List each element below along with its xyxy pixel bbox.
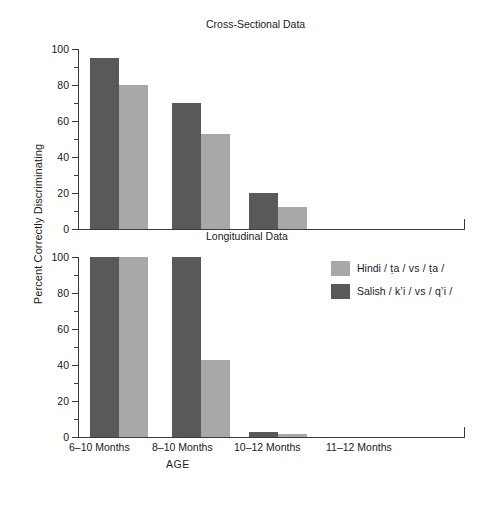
bar-long-hindi-10-12 <box>278 434 307 437</box>
y-tick-label-40-bottom: 40 <box>57 360 69 371</box>
bar-long-salish-8-10 <box>172 257 201 437</box>
y-minor-tick-70-top <box>74 103 78 104</box>
bar-cross-salish-10-12 <box>249 193 278 229</box>
y-axis-line-top <box>78 49 79 230</box>
bar-cross-salish-6-10 <box>90 58 119 229</box>
y-minor-tick-90-top <box>74 67 78 68</box>
y-tick-label-100-top: 100 <box>51 44 69 55</box>
y-tick-0-bottom <box>72 437 78 438</box>
y-minor-tick-30-top <box>74 175 78 176</box>
bar-cross-hindi-8-10 <box>201 134 230 229</box>
y-tick-20-top <box>72 193 78 194</box>
y-tick-80-top <box>72 85 78 86</box>
legend-label-salish: Salish / kʼi / vs / qʼi / <box>357 284 452 299</box>
x-axis-title: AGE <box>78 458 278 470</box>
y-tick-label-20-bottom: 20 <box>57 396 69 407</box>
legend-label-hindi-name: Hindi <box>357 262 381 274</box>
y-tick-80-bottom <box>72 293 78 294</box>
y-tick-label-20-top: 20 <box>57 188 69 199</box>
legend-item-salish: Salish / kʼi / vs / qʼi / <box>331 282 501 305</box>
x-axis-endcap-bottom <box>464 427 465 438</box>
y-tick-20-bottom <box>72 401 78 402</box>
y-minor-tick-90-bottom <box>74 275 78 276</box>
legend-item-hindi: Hindi / ṭa / vs / ṭa / <box>331 259 501 282</box>
y-minor-tick-30-bottom <box>74 383 78 384</box>
y-tick-40-bottom <box>72 365 78 366</box>
x-tick-label-8-10: 8–10 Months <box>152 441 213 453</box>
bar-long-salish-6-10 <box>90 257 119 437</box>
y-minor-tick-50-top <box>74 139 78 140</box>
x-tick-label-10-12: 10–12 Months <box>234 441 301 453</box>
y-minor-tick-10-top <box>74 211 78 212</box>
panel-title-longitudinal: Longitudinal Data <box>206 230 288 242</box>
y-minor-tick-70-bottom <box>74 311 78 312</box>
legend-label-salish-name: Salish <box>357 285 386 297</box>
legend-label-hindi: Hindi / ṭa / vs / ṭa / <box>357 261 444 276</box>
figure-chart: Percent Correctly Discriminating Cross-S… <box>0 0 501 506</box>
bar-long-hindi-8-10 <box>201 360 230 437</box>
y-tick-label-40-top: 40 <box>57 152 69 163</box>
y-tick-label-60-top: 60 <box>57 116 69 127</box>
x-tick-label-6-10: 6–10 Months <box>69 441 130 453</box>
y-tick-label-80-bottom: 80 <box>57 288 69 299</box>
legend-swatch-hindi <box>331 261 350 276</box>
y-tick-100-top <box>72 49 78 50</box>
chart-legend: Hindi / ṭa / vs / ṭa / Salish / kʼi / vs… <box>331 259 501 305</box>
x-axis-line-bottom <box>78 437 465 438</box>
x-tick-label-11-12: 11–12 Months <box>326 441 392 453</box>
y-minor-tick-10-bottom <box>74 419 78 420</box>
y-tick-60-bottom <box>72 329 78 330</box>
legend-label-hindi-ipa: / ṭa / vs / ṭa / <box>381 262 445 274</box>
legend-swatch-salish <box>331 284 350 299</box>
y-tick-label-80-top: 80 <box>57 80 69 91</box>
bar-cross-hindi-6-10 <box>119 85 148 229</box>
panel-title-cross-sectional: Cross-Sectional Data <box>206 18 305 30</box>
legend-label-salish-ipa: / kʼi / vs / qʼi / <box>386 285 453 297</box>
bar-cross-salish-8-10 <box>172 103 201 229</box>
y-tick-60-top <box>72 121 78 122</box>
x-axis-endcap-top <box>464 219 465 230</box>
bar-cross-hindi-10-12 <box>278 207 307 229</box>
plot-area-cross-sectional: 100 80 60 40 20 0 <box>78 49 465 230</box>
y-minor-tick-50-bottom <box>74 347 78 348</box>
bar-long-hindi-6-10 <box>119 257 148 437</box>
y-tick-label-60-bottom: 60 <box>57 324 69 335</box>
panel-cross-sectional: Cross-Sectional Data 100 80 60 40 20 0 <box>0 18 501 218</box>
y-tick-100-bottom <box>72 257 78 258</box>
y-tick-40-top <box>72 157 78 158</box>
y-axis-line-bottom <box>78 257 79 438</box>
y-tick-label-100-bottom: 100 <box>51 252 69 263</box>
bar-long-salish-10-12 <box>249 432 278 437</box>
